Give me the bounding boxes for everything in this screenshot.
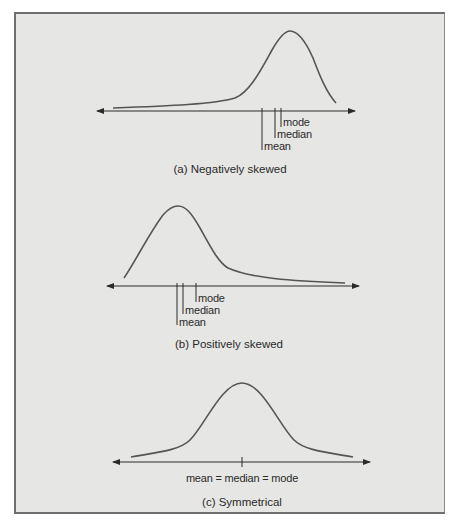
panel-symmetrical: mean = median = mode (c) Symmetrical [113, 383, 370, 508]
median-label: median [277, 128, 312, 140]
mode-label: mode [283, 116, 310, 128]
panel-negatively-skewed: mode median mean (a) Negatively skewed [97, 31, 355, 175]
mean-label: mean [264, 140, 291, 152]
caption-a: (a) Negatively skewed [173, 163, 286, 175]
negative-skew-curve [113, 31, 336, 108]
mean-label: mean [179, 316, 206, 328]
panel-positively-skewed: mode median mean (b) Positively skewed [107, 206, 359, 350]
center-label: mean = median = mode [186, 472, 298, 484]
positive-skew-curve [124, 206, 345, 283]
caption-b: (b) Positively skewed [175, 338, 283, 350]
mode-label: mode [198, 292, 225, 304]
skewness-diagram: mode median mean (a) Negatively skewed m… [0, 0, 457, 526]
caption-c: (c) Symmetrical [202, 496, 282, 508]
symmetric-curve [131, 383, 353, 457]
median-label: median [185, 304, 220, 316]
